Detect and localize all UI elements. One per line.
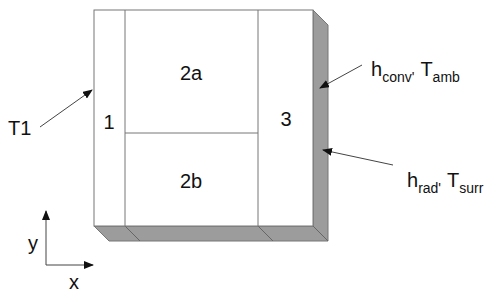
tsurr-t: T	[447, 169, 459, 191]
hrad-sub: rad	[418, 180, 438, 196]
region-label-2a: 2a	[180, 62, 203, 84]
tsurr-sub: surr	[459, 180, 483, 196]
y-axis-label: y	[28, 232, 38, 254]
hconv-tamb-label: hconv'Tamb	[371, 58, 460, 85]
region-label-2b: 2b	[180, 170, 202, 192]
region-label-3: 3	[280, 108, 291, 130]
hrad-h: h	[407, 169, 418, 191]
right-side-face	[313, 10, 328, 241]
x-axis-label: x	[69, 271, 79, 293]
t1-label: T1	[8, 117, 31, 139]
tamb-sub: amb	[433, 69, 460, 85]
hrad-tsurr-label: hrad'Tsurr	[407, 169, 484, 196]
t1-arrow	[40, 90, 92, 127]
hconv-sep: '	[412, 69, 415, 85]
hrad-sep: '	[438, 180, 441, 196]
hrad-arrow	[323, 150, 393, 165]
heat-transfer-diagram: 1 2a 2b 3 T1 hconv'Tamb hrad'Tsurr y x	[0, 0, 497, 301]
coordinate-axes: y x	[28, 211, 93, 293]
region-label-1: 1	[103, 111, 114, 133]
hconv-sub: conv	[382, 69, 412, 85]
tamb-t: T	[420, 58, 432, 80]
hconv-h: h	[371, 58, 382, 80]
bottom-side-face	[94, 226, 328, 241]
